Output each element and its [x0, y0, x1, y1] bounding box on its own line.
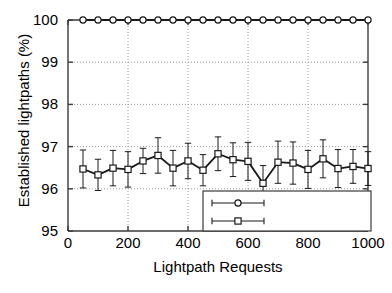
marker-circle [155, 17, 161, 23]
marker-circle [125, 17, 131, 23]
marker-circle [185, 17, 191, 23]
marker-square [245, 158, 251, 164]
plot-svg [0, 0, 392, 293]
marker-square [230, 157, 236, 163]
marker-circle [170, 17, 176, 23]
marker-circle [290, 17, 296, 23]
marker-circle [110, 17, 116, 23]
marker-square [95, 172, 101, 178]
marker-circle [95, 17, 101, 23]
marker-circle [215, 17, 221, 23]
marker-circle [305, 17, 311, 23]
marker-square [125, 166, 131, 172]
marker-circle [200, 17, 206, 23]
marker-circle [335, 17, 341, 23]
marker-square [275, 159, 281, 165]
marker-square [215, 151, 221, 157]
legend-marker-square [235, 218, 241, 224]
marker-square [110, 165, 116, 171]
marker-circle [350, 17, 356, 23]
marker-square [290, 160, 296, 166]
marker-square [140, 158, 146, 164]
marker-square [80, 166, 86, 172]
marker-circle [320, 17, 326, 23]
marker-square [260, 180, 266, 186]
marker-circle [230, 17, 236, 23]
chart-container: Established lightpaths (%) Lightpath Req… [0, 0, 392, 293]
marker-square [365, 165, 371, 171]
marker-square [155, 152, 161, 158]
marker-square [170, 165, 176, 171]
legend-marker-circle [235, 200, 241, 206]
marker-square [200, 167, 206, 173]
marker-circle [365, 17, 371, 23]
marker-circle [260, 17, 266, 23]
marker-circle [245, 17, 251, 23]
marker-square [350, 163, 356, 169]
marker-square [305, 166, 311, 172]
marker-circle [140, 17, 146, 23]
marker-circle [80, 17, 86, 23]
marker-circle [275, 17, 281, 23]
marker-square [185, 158, 191, 164]
marker-square [335, 165, 341, 171]
legend-box [203, 191, 371, 231]
marker-square [320, 156, 326, 162]
